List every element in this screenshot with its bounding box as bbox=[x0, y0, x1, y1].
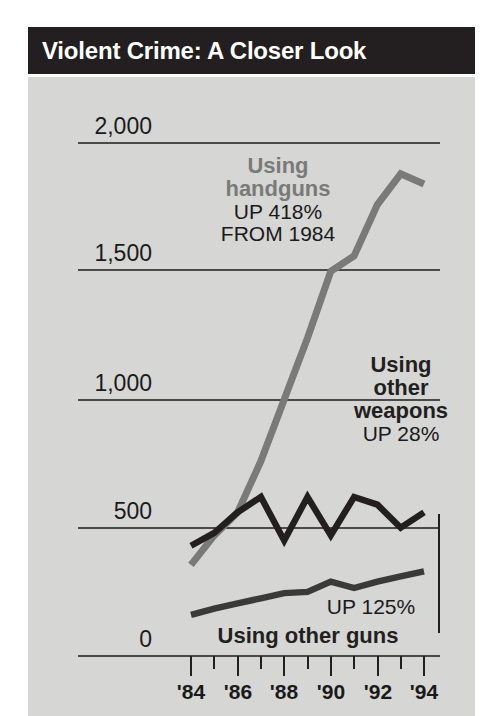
annotation-other-weapons-line3: weapons bbox=[333, 400, 469, 423]
annotation-other-guns-label: Using other guns bbox=[163, 625, 453, 648]
annotation-handguns: Using handguns UP 418% FROM 1984 bbox=[203, 155, 353, 244]
ytick-label-0: 0 bbox=[46, 626, 152, 653]
x-axis-ticks bbox=[191, 656, 424, 676]
annotation-other-weapons-line4: UP 28% bbox=[333, 423, 469, 445]
chart-figure: Violent Crime: A Closer Look bbox=[0, 0, 493, 716]
xtick-label-94: '94 bbox=[394, 680, 454, 704]
annotation-other-guns-line1: UP 125% bbox=[291, 596, 451, 618]
annotation-handguns-line2: handguns bbox=[203, 178, 353, 201]
annotation-handguns-line4: FROM 1984 bbox=[203, 223, 353, 245]
annotation-handguns-line1: Using bbox=[203, 155, 353, 178]
annotation-other-weapons-line1: Using bbox=[333, 354, 469, 377]
ytick-label-1500: 1,500 bbox=[46, 240, 152, 267]
annotation-other-guns: UP 125% bbox=[291, 596, 451, 618]
chart-panel: 2,000 1,500 1,000 500 0 '84 '86 '88 '90 … bbox=[28, 77, 475, 716]
annotation-other-guns-line2: Using other guns bbox=[163, 625, 453, 648]
series-line-using-other-weapons bbox=[191, 497, 424, 546]
ytick-label-1000: 1,000 bbox=[46, 370, 152, 397]
ytick-label-2000: 2,000 bbox=[46, 113, 152, 140]
title-banner: Violent Crime: A Closer Look bbox=[28, 27, 475, 74]
ytick-label-500: 500 bbox=[46, 498, 152, 525]
annotation-handguns-line3: UP 418% bbox=[203, 201, 353, 223]
annotation-other-weapons-line2: other bbox=[333, 377, 469, 400]
page-title: Violent Crime: A Closer Look bbox=[28, 37, 366, 65]
annotation-other-weapons: Using other weapons UP 28% bbox=[333, 354, 469, 444]
